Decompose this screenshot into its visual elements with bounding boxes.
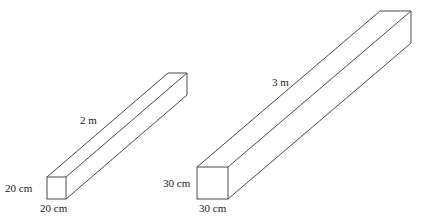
bottom-right-edge [228, 43, 411, 199]
small-prism-length-label: 2 m [80, 115, 97, 126]
large-prism-height-label: 30 cm [163, 178, 190, 189]
top-left-edge [47, 73, 168, 177]
prisms-diagram [0, 0, 426, 223]
large-prism-width-label: 30 cm [199, 203, 226, 214]
front-face [47, 177, 66, 199]
small-prism-width-label: 20 cm [40, 203, 67, 214]
small-prism-height-label: 20 cm [5, 183, 32, 194]
top-left-edge [197, 11, 380, 167]
large-prism-length-label: 3 m [272, 77, 289, 88]
front-face [197, 167, 228, 199]
top-right-edge [228, 11, 411, 167]
large-prism [197, 11, 411, 199]
